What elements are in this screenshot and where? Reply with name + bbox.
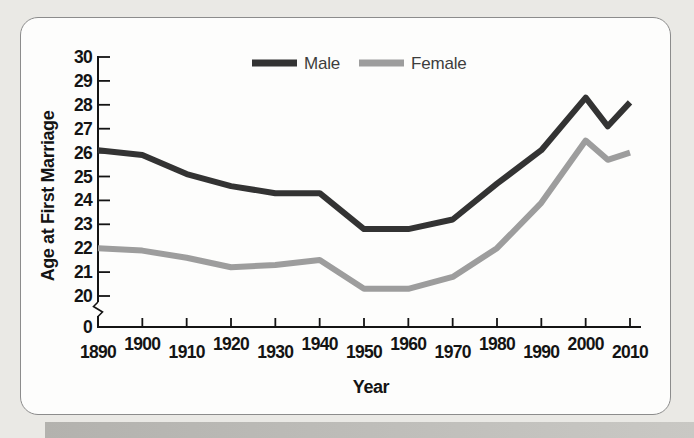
y-tick-label: 28: [74, 95, 93, 115]
legend-label-female: Female: [411, 54, 467, 73]
x-tick-label: 1950: [346, 342, 383, 362]
y-tick-label: 30: [74, 47, 93, 67]
legend-label-male: Male: [304, 54, 340, 73]
y-tick-label: 22: [74, 238, 93, 258]
x-tick-label: 1980: [479, 334, 516, 354]
y-tick-label: 29: [74, 71, 93, 91]
x-axis-title: Year: [353, 377, 390, 397]
y-tick-label: 24: [74, 190, 93, 210]
x-tick-label: 1990: [523, 342, 560, 362]
y-tick-label: 20: [74, 286, 93, 306]
x-tick-label: 1930: [257, 342, 294, 362]
y-tick-label: 26: [74, 143, 93, 163]
marriage-age-chart: 3029282726252423222120018901900191019201…: [0, 0, 694, 438]
x-tick-label: 1940: [302, 334, 339, 354]
y-tick-label: 23: [74, 214, 93, 234]
x-tick-label: 1910: [169, 342, 206, 362]
series-line-male: [98, 98, 630, 230]
x-tick-label: 1900: [124, 334, 161, 354]
x-tick-label: 1890: [80, 342, 117, 362]
x-tick-label: 2010: [612, 342, 649, 362]
y-axis-title: Age at First Marriage: [38, 110, 58, 281]
y-tick-label: 21: [74, 262, 93, 282]
axis-break-icon: [94, 302, 103, 317]
y-tick-label: 25: [74, 167, 93, 187]
x-tick-label: 2000: [568, 334, 605, 354]
x-tick-label: 1970: [435, 342, 472, 362]
x-tick-label: 1920: [213, 334, 250, 354]
series-line-female: [98, 141, 630, 289]
y-axis-break-label: 0: [83, 317, 93, 337]
y-tick-label: 27: [74, 119, 92, 139]
x-tick-label: 1960: [390, 334, 427, 354]
